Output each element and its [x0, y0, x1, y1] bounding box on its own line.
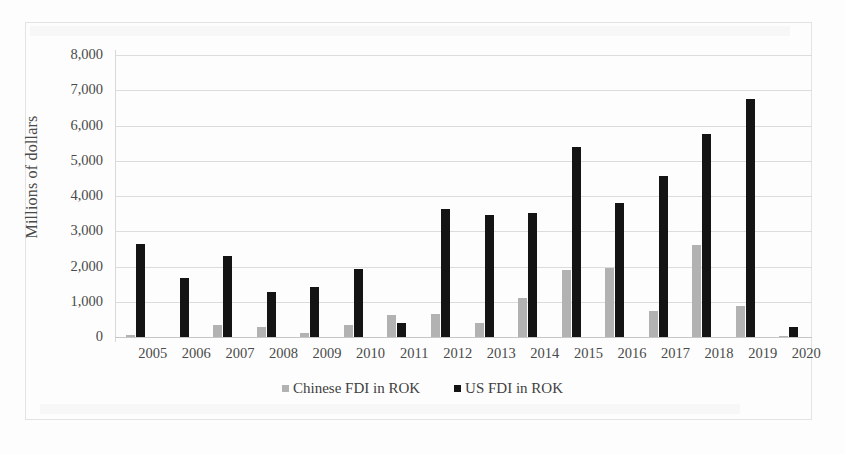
legend-item-chinese-fdi[interactable]: Chinese FDI in ROK	[282, 380, 420, 397]
bar-chinese-fdi-2005[interactable]	[126, 335, 135, 337]
y-tick-label: 1,000	[43, 293, 103, 310]
bar-us-fdi-2011[interactable]	[397, 323, 406, 337]
bar-group-2017	[638, 55, 682, 337]
bar-us-fdi-2014[interactable]	[528, 213, 537, 337]
bar-chinese-fdi-2019[interactable]	[736, 306, 745, 337]
bar-chinese-fdi-2015[interactable]	[562, 270, 571, 337]
bar-us-fdi-2008[interactable]	[267, 292, 276, 337]
bar-group-2006	[159, 55, 203, 337]
bar-group-2011	[376, 55, 420, 337]
y-tick-label: 6,000	[43, 117, 103, 134]
bar-group-2012	[420, 55, 464, 337]
bar-us-fdi-2012[interactable]	[441, 209, 450, 337]
legend-label-chinese-fdi: Chinese FDI in ROK	[293, 380, 420, 397]
bar-chinese-fdi-2010[interactable]	[344, 325, 353, 337]
bar-chinese-fdi-2016[interactable]	[605, 268, 614, 337]
chart-legend: Chinese FDI in ROK US FDI in ROK	[0, 380, 845, 397]
bar-chinese-fdi-2017[interactable]	[649, 311, 658, 337]
bar-us-fdi-2016[interactable]	[615, 203, 624, 337]
legend-item-us-fdi[interactable]: US FDI in ROK	[454, 380, 563, 397]
bar-us-fdi-2009[interactable]	[310, 287, 319, 337]
chart-figure: Millions of dollars 01,0002,0003,0004,00…	[0, 0, 845, 454]
bar-us-fdi-2007[interactable]	[223, 256, 232, 337]
legend-swatch-us-fdi	[454, 385, 461, 392]
bar-us-fdi-2013[interactable]	[485, 215, 494, 337]
bar-group-2019	[725, 55, 769, 337]
bar-chinese-fdi-2013[interactable]	[475, 323, 484, 337]
bar-group-2016	[594, 55, 638, 337]
bar-group-2013	[464, 55, 508, 337]
x-tick-label-2020: 2020	[776, 345, 836, 362]
bar-chinese-fdi-2020[interactable]	[779, 336, 788, 338]
y-tick-label: 2,000	[43, 258, 103, 275]
gridline-0	[115, 337, 812, 338]
bar-group-2018	[681, 55, 725, 337]
y-tick-label: 7,000	[43, 81, 103, 98]
legend-swatch-chinese-fdi	[282, 385, 289, 392]
bar-us-fdi-2015[interactable]	[572, 147, 581, 337]
y-tick-label: 4,000	[43, 187, 103, 204]
legend-label-us-fdi: US FDI in ROK	[465, 380, 563, 397]
bar-chinese-fdi-2012[interactable]	[431, 314, 440, 337]
bar-us-fdi-2020[interactable]	[789, 327, 798, 337]
bar-chinese-fdi-2018[interactable]	[692, 245, 701, 337]
y-tick-label: 5,000	[43, 152, 103, 169]
y-axis-title: Millions of dollars	[23, 77, 41, 277]
bar-us-fdi-2005[interactable]	[136, 244, 145, 337]
bar-chinese-fdi-2011[interactable]	[387, 315, 396, 337]
bar-us-fdi-2006[interactable]	[180, 278, 189, 337]
bar-chinese-fdi-2008[interactable]	[257, 327, 266, 337]
bar-group-2010	[333, 55, 377, 337]
bar-chinese-fdi-2009[interactable]	[300, 333, 309, 337]
bar-us-fdi-2010[interactable]	[354, 269, 363, 337]
y-tick-label: 0	[43, 328, 103, 345]
bar-group-2020	[768, 55, 812, 337]
bar-chinese-fdi-2014[interactable]	[518, 298, 527, 337]
bar-group-2015	[551, 55, 595, 337]
bar-group-2007	[202, 55, 246, 337]
bar-group-2008	[246, 55, 290, 337]
plot-area: 01,0002,0003,0004,0005,0006,0007,0008,00…	[115, 55, 812, 337]
bar-group-2009	[289, 55, 333, 337]
bar-us-fdi-2018[interactable]	[702, 134, 711, 337]
bar-group-2005	[115, 55, 159, 337]
y-tick-label: 3,000	[43, 222, 103, 239]
bar-us-fdi-2017[interactable]	[659, 176, 668, 337]
bar-us-fdi-2019[interactable]	[746, 99, 755, 337]
bar-group-2014	[507, 55, 551, 337]
y-tick-label: 8,000	[43, 46, 103, 63]
bar-chinese-fdi-2007[interactable]	[213, 325, 222, 337]
